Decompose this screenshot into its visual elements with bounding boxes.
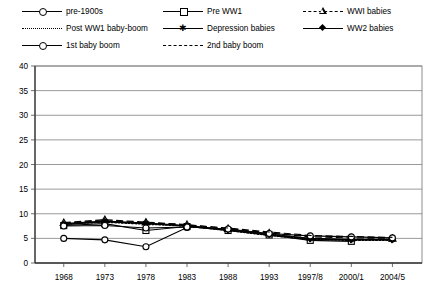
data-point-marker xyxy=(143,225,149,231)
x-axis-tick-label: 2000/1 xyxy=(339,273,364,282)
asterisk-icon: ✱ xyxy=(179,24,187,32)
data-point-marker xyxy=(61,235,67,241)
legend-key-solid-circle-open xyxy=(22,40,62,51)
legend-row: pre-1900s Pre WW1 WWI babies xyxy=(0,4,444,19)
x-axis-tick-label: 1978 xyxy=(137,273,156,282)
legend-item-1st-baby-boom[interactable]: 1st baby boom xyxy=(22,38,120,53)
legend-label: WW2 babies xyxy=(347,24,393,34)
data-point-marker xyxy=(102,223,108,229)
chart-root: pre-1900s Pre WW1 WWI babies xyxy=(0,0,444,297)
y-axis-labels: 0510152025303540 xyxy=(19,62,29,268)
x-axis-tick-label: 1968 xyxy=(55,273,74,282)
x-axis-tick-label: 1983 xyxy=(178,273,197,282)
line-chart-svg: ✻✻✻✻✻✻✻✻✻ 0510152025303540 1968197319781… xyxy=(0,56,444,297)
y-axis-tick-label: 5 xyxy=(23,234,28,243)
y-axis-tick-label: 10 xyxy=(19,210,29,219)
legend-key-solid-square-open xyxy=(163,6,203,17)
data-point-marker xyxy=(143,244,149,250)
x-axis-tick-label: 1997/8 xyxy=(298,273,323,282)
legend-item-post-ww1-baby-boom[interactable]: Post WW1 baby-boom xyxy=(22,21,148,36)
legend-item-depression-babies[interactable]: ✱ Depression babies xyxy=(163,21,275,36)
chart-gridlines xyxy=(35,66,422,238)
chart-legend: pre-1900s Pre WW1 WWI babies xyxy=(0,0,444,56)
data-point-marker xyxy=(225,226,231,232)
x-axis-tick-label: 2004/5 xyxy=(380,273,405,282)
chart-plot-area: ✻✻✻✻✻✻✻✻✻ 0510152025303540 1968197319781… xyxy=(0,56,444,297)
data-point-marker xyxy=(61,223,67,229)
legend-label: Post WW1 baby-boom xyxy=(66,24,148,34)
y-axis-tick-label: 0 xyxy=(23,259,28,268)
legend-key-solid-star: ✱ xyxy=(163,23,203,34)
y-axis-tick-label: 40 xyxy=(19,62,29,71)
x-axis-tick-label: 1973 xyxy=(96,273,115,282)
y-axis-tick-label: 20 xyxy=(19,161,29,170)
legend-item-ww2-babies[interactable]: WW2 babies xyxy=(303,21,393,36)
legend-key-dashed xyxy=(163,40,203,51)
x-axis-tick-label: 1993 xyxy=(260,273,279,282)
legend-item-pre-1900s[interactable]: pre-1900s xyxy=(22,4,103,19)
legend-label: WWI babies xyxy=(347,7,391,17)
legend-key-solid-circle-open xyxy=(22,6,62,17)
legend-label: 1st baby boom xyxy=(66,41,120,51)
legend-row: Post WW1 baby-boom ✱ Depression babies W… xyxy=(0,21,444,36)
x-axis-tick-label: 1988 xyxy=(219,273,238,282)
legend-label: Pre WW1 xyxy=(207,7,242,17)
legend-label: pre-1900s xyxy=(66,7,103,17)
legend-label: Depression babies xyxy=(207,24,275,34)
series-line xyxy=(64,228,187,247)
legend-row: 1st baby boom 2nd baby boom xyxy=(0,38,444,53)
y-axis-tick-label: 25 xyxy=(19,136,29,145)
legend-item-2nd-baby-boom[interactable]: 2nd baby boom xyxy=(163,38,263,53)
y-axis-tick-label: 35 xyxy=(19,87,29,96)
y-axis-tick-label: 15 xyxy=(19,185,29,194)
x-axis-labels: 1968197319781983198819931997/82000/12004… xyxy=(55,273,406,282)
legend-key-dotted xyxy=(22,23,62,34)
legend-item-pre-ww1[interactable]: Pre WW1 xyxy=(163,4,242,19)
legend-key-solid-diamond xyxy=(303,23,343,34)
legend-item-wwi-babies[interactable]: WWI babies xyxy=(303,4,391,19)
legend-label: 2nd baby boom xyxy=(207,41,263,51)
legend-key-dashed-triangle-open xyxy=(303,6,343,17)
chart-series-layer: ✻✻✻✻✻✻✻✻✻ xyxy=(60,216,397,250)
y-axis-tick-label: 30 xyxy=(19,111,29,120)
data-point-marker xyxy=(102,237,108,243)
